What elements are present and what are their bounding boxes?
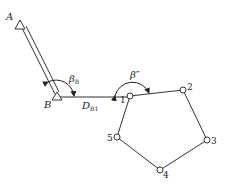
closed-traverse xyxy=(117,90,207,170)
label-beta-b: βB xyxy=(68,73,80,85)
control-point-b-icon xyxy=(52,92,62,100)
control-point-a-icon xyxy=(15,20,25,29)
station-3-icon xyxy=(204,137,210,143)
label-distance: DB1 xyxy=(81,100,98,112)
station-5-label: 5 xyxy=(107,133,113,143)
traverse-diagram: A B βB β″ DB1 1 2 3 4 5 xyxy=(0,0,229,189)
station-2-label: 2 xyxy=(187,82,193,92)
label-beta-prime: β″ xyxy=(129,69,140,80)
station-3-label: 3 xyxy=(211,136,217,146)
station-4-label: 4 xyxy=(163,170,169,180)
station-2-icon xyxy=(180,87,186,93)
known-line-ab xyxy=(22,26,59,94)
label-a: A xyxy=(5,11,13,22)
station-5-icon xyxy=(114,134,120,140)
station-1-icon xyxy=(127,93,133,99)
label-b: B xyxy=(43,99,51,110)
station-1-label: 1 xyxy=(120,95,126,105)
